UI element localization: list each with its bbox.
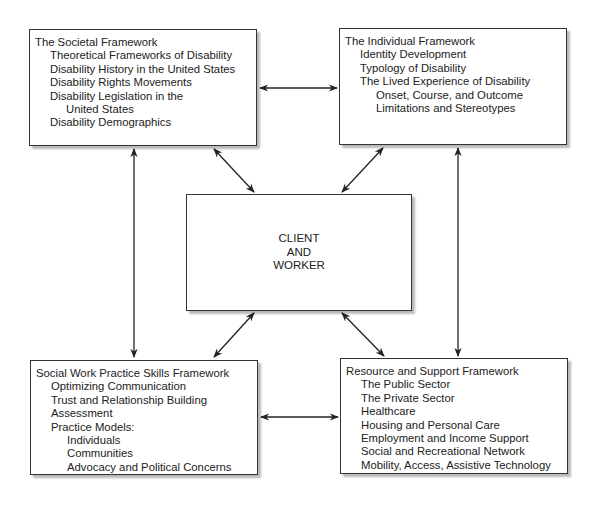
resource-support-framework-box: Resource and Support Framework The Publi… xyxy=(340,358,568,474)
list-item: Individuals xyxy=(36,434,257,447)
list-item: Mobility, Access, Assistive Technology xyxy=(346,459,567,472)
list-item: Limitations and Stereotypes xyxy=(345,102,566,115)
list-item: Typology of Disability xyxy=(345,62,566,75)
social-work-framework-box: Social Work Practice Skills Framework Op… xyxy=(30,360,258,475)
list-item: Theoretical Frameworks of Disability xyxy=(35,49,256,62)
list-item: Disability History in the United States xyxy=(35,63,256,76)
center-label-line: CLIENT xyxy=(279,232,320,245)
list-item: The Private Sector xyxy=(346,392,567,405)
list-item: The Lived Experience of Disability xyxy=(345,75,566,88)
arrow-resource-center xyxy=(342,313,384,356)
list-item: Employment and Income Support xyxy=(346,432,567,445)
list-item: United States xyxy=(35,103,256,116)
list-item: Healthcare xyxy=(346,405,567,418)
list-item: Identity Development xyxy=(345,48,566,61)
center-label-line: AND xyxy=(287,246,311,259)
box-title: The Societal Framework xyxy=(35,36,256,49)
list-item: Disability Rights Movements xyxy=(35,76,256,89)
list-item: Practice Models: xyxy=(36,421,257,434)
societal-framework-box: The Societal Framework Theoretical Frame… xyxy=(29,29,257,146)
list-item: Advocacy and Political Concerns xyxy=(36,461,257,474)
list-item: Assessment xyxy=(36,407,257,420)
center-label-line: WORKER xyxy=(273,259,325,272)
list-item: Disability Demographics xyxy=(35,116,256,129)
arrow-socialwork-center xyxy=(214,313,254,357)
list-item: Disability Legislation in the xyxy=(35,90,256,103)
list-item: Communities xyxy=(36,447,257,460)
arrow-societal-center xyxy=(214,149,254,192)
list-item: Housing and Personal Care xyxy=(346,419,567,432)
arrow-individual-center xyxy=(342,148,383,192)
list-item: Trust and Relationship Building xyxy=(36,394,257,407)
individual-framework-box: The Individual Framework Identity Develo… xyxy=(339,28,567,145)
list-item: The Public Sector xyxy=(346,378,567,391)
list-item: Optimizing Communication xyxy=(36,380,257,393)
box-title: The Individual Framework xyxy=(345,35,566,48)
client-worker-box: CLIENT AND WORKER xyxy=(186,194,412,311)
list-item: Social and Recreational Network xyxy=(346,445,567,458)
list-item: Onset, Course, and Outcome xyxy=(345,89,566,102)
box-title: Resource and Support Framework xyxy=(346,365,567,378)
box-title: Social Work Practice Skills Framework xyxy=(36,367,257,380)
